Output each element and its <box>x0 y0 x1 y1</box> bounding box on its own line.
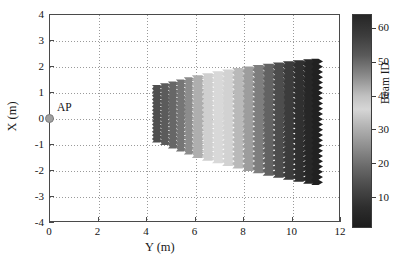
x-axis-tick <box>49 217 50 222</box>
colorbar-tick-label: 60 <box>378 22 389 33</box>
x-axis-tick <box>98 217 99 222</box>
ap-marker-icon <box>45 114 54 123</box>
y-axis-tick <box>49 222 54 223</box>
colorbar-title: Beam ID <box>379 62 391 104</box>
y-axis-tick-label: 4 <box>18 9 44 20</box>
y-axis-tick <box>49 66 54 67</box>
colorbar-tick <box>372 197 376 198</box>
colorbar-tick <box>372 129 376 130</box>
x-axis-tick-label: 12 <box>325 226 355 237</box>
y-axis-tick-label: 2 <box>18 61 44 72</box>
beam-coverage-data <box>50 15 339 221</box>
y-axis-tick <box>49 196 54 197</box>
x-axis-tick-label: 4 <box>131 226 161 237</box>
colorbar-tick <box>372 163 376 164</box>
y-axis-tick-label: -2 <box>18 165 44 176</box>
colorbar-tick <box>372 28 376 29</box>
colorbar-tick <box>372 96 376 97</box>
x-axis-tick <box>195 217 196 222</box>
x-axis-tick-label: 6 <box>180 226 210 237</box>
plot-area <box>49 14 340 222</box>
colorbar-tick-label: 10 <box>378 192 389 203</box>
ap-label: AP <box>57 101 72 113</box>
y-axis-tick-label: 1 <box>18 87 44 98</box>
y-axis-tick <box>49 170 54 171</box>
x-axis-tick-label: 10 <box>277 226 307 237</box>
y-axis-tick-label: 3 <box>18 35 44 46</box>
figure-root: -4-3-2-101234024681012 AP Y (m) X (m) 10… <box>0 0 419 260</box>
colorbar-tick <box>372 62 376 63</box>
x-axis-tick <box>243 217 244 222</box>
y-axis-tick <box>49 14 54 15</box>
x-axis-tick-label: 0 <box>34 226 64 237</box>
y-axis-tick <box>49 92 54 93</box>
y-axis-tick-label: 0 <box>18 113 44 124</box>
x-axis-tick-label: 8 <box>228 226 258 237</box>
y-axis-title: X (m) <box>5 87 20 147</box>
x-axis-tick <box>340 217 341 222</box>
colorbar <box>352 14 372 228</box>
x-axis-tick <box>146 217 147 222</box>
colorbar-tick-label: 30 <box>378 124 389 135</box>
y-axis-tick-label: -3 <box>18 191 44 202</box>
x-axis-tick <box>292 217 293 222</box>
y-axis-tick <box>49 144 54 145</box>
colorbar-tick-label: 20 <box>378 158 389 169</box>
colorbar-gradient <box>353 15 371 227</box>
x-axis-title: Y (m) <box>145 240 175 255</box>
y-axis-tick <box>49 40 54 41</box>
y-axis-tick-label: -1 <box>18 139 44 150</box>
x-axis-tick-label: 2 <box>83 226 113 237</box>
